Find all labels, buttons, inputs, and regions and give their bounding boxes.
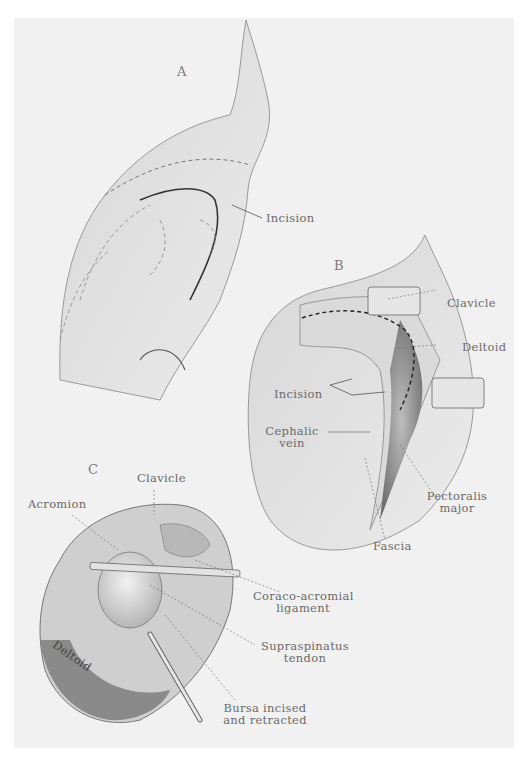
label-acromion: Acromion [28, 498, 86, 510]
label-fascia: Fascia [373, 540, 412, 552]
label-coraco-acromial-ligament: Coraco-acromial ligament [253, 590, 353, 614]
label-coraco-line2: ligament [253, 602, 353, 614]
label-pectoralis-major: Pectoralis major [426, 490, 488, 514]
panel-a-letter: A [177, 64, 186, 79]
label-cephalic-line2: vein [262, 437, 322, 449]
panel-a-shoulder [60, 20, 270, 400]
label-supraspinatus-line2: tendon [255, 652, 355, 664]
panel-b-letter: B [334, 258, 344, 273]
label-cephalic-vein: Cephalic vein [262, 425, 322, 449]
label-clavicle-c: Clavicle [137, 472, 186, 484]
panel-c-letter: C [88, 462, 98, 477]
panel-c-shoulder [40, 490, 280, 723]
label-clavicle-b: Clavicle [447, 297, 496, 309]
label-bursa-line2: and retracted [215, 714, 315, 726]
label-deltoid-b: Deltoid [462, 341, 506, 353]
label-bursa: Bursa incised and retracted [215, 702, 315, 726]
label-incision-a: Incision [266, 212, 314, 224]
label-pectoralis-line2: major [426, 502, 488, 514]
label-supraspinatus-tendon: Supraspinatus tendon [255, 640, 355, 664]
label-incision-b: Incision [274, 388, 322, 400]
